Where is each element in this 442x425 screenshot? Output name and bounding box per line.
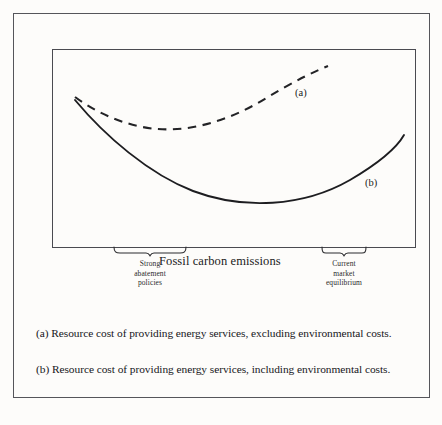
caption-a: (a) Resource cost of providing energy se… [36,326,416,340]
figure-root: Energy system costs (a) (b) Fossil carbo… [0,0,442,425]
curve-label-b: (b) [365,177,377,188]
figure-outer-border: Energy system costs (a) (b) Fossil carbo… [13,13,430,398]
curve-a-dashed [75,66,328,129]
caption-block: (a) Resource cost of providing energy se… [36,326,416,376]
chart-area: Energy system costs (a) (b) Fossil carbo… [14,14,431,314]
curve-b-solid [75,100,404,203]
bracket-left-label: Strong abatement policies [113,259,187,288]
plot-curves [53,50,417,249]
curve-label-a: (a) [295,87,307,98]
curly-brace-icon [321,246,367,257]
bracket-right-label: Current market equilibrium [321,259,367,288]
plot-frame [52,49,416,248]
bracket-strong-abatement-policies: Strong abatement policies [113,246,187,288]
bracket-right-line-1: Current [321,259,367,269]
bracket-right-line-3: equilibrium [321,278,367,288]
bracket-left-line-2: abatement [113,269,187,279]
bracket-left-line-1: Strong [113,259,187,269]
curly-brace-icon [113,246,187,257]
caption-b: (b) Resource cost of providing energy se… [36,362,416,376]
bracket-right-line-2: market [321,269,367,279]
bracket-current-market-equilibrium: Current market equilibrium [321,246,367,288]
bracket-left-line-3: policies [113,278,187,288]
